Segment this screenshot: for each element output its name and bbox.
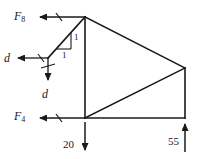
reaction-F8-group xyxy=(40,13,85,21)
slope-run-label: 1 xyxy=(62,51,67,60)
truss-diagram-figure: F8 F4 d d 1 1 20 55 xyxy=(0,0,201,159)
member-upper-left-diagonal xyxy=(48,17,85,58)
slope-rise-label: 1 xyxy=(74,33,79,42)
load-55-label: 55 xyxy=(168,136,179,147)
displacement-d-vertical-label: d xyxy=(42,88,48,100)
displacement-d-horizontal-group xyxy=(18,54,48,62)
force-F4-subscript: 4 xyxy=(21,115,25,124)
member-top-diagonal xyxy=(85,17,185,68)
load-20-label: 20 xyxy=(63,139,74,150)
force-F4-label: F4 xyxy=(14,110,25,122)
member-inner-diagonal xyxy=(85,68,185,118)
truss-members-group xyxy=(48,17,185,118)
force-F8-subscript: 8 xyxy=(21,15,25,24)
displacement-d-horizontal-label: d xyxy=(4,52,10,64)
force-F8-label: F8 xyxy=(14,10,25,22)
reaction-F4-group xyxy=(40,114,85,122)
